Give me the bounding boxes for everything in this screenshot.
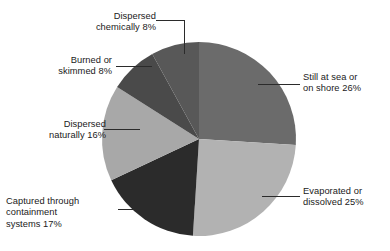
pie-label-dispersed-naturally: Dispersed naturally 16% <box>12 119 106 142</box>
pie-label-dispersed-chemically: Dispersed chemically 8% <box>64 11 156 34</box>
pie-chart: Still at sea or on shore 26% Evaporated … <box>0 0 390 251</box>
pie-label-captured: Captured through containment systems 17% <box>6 196 114 230</box>
pie-label-burned: Burned or skimmed 8% <box>28 55 112 78</box>
pie-slices <box>102 42 296 236</box>
pie-label-still-at-sea: Still at sea or on shore 26% <box>303 72 387 95</box>
pie-label-evaporated: Evaporated or dissolved 25% <box>303 186 387 209</box>
pie-slice-still-at-sea <box>199 42 296 145</box>
pie-slice-evaporated <box>193 139 296 236</box>
